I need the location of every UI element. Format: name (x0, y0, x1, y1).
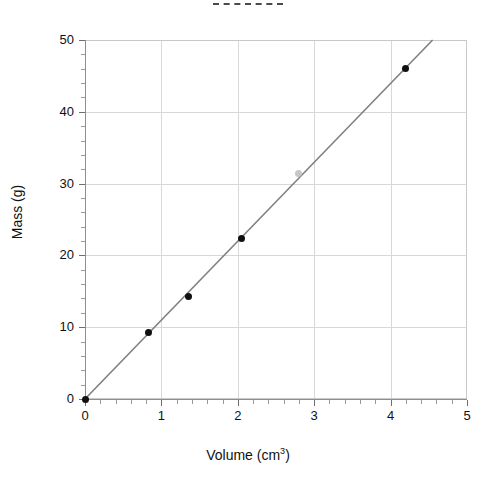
y-axis-title: Mass (g) (9, 132, 25, 292)
x-tick-minor (268, 400, 269, 404)
x-axis-title-close: ) (285, 447, 290, 463)
y-tick-minor (81, 342, 85, 343)
x-tick-major (314, 400, 315, 406)
y-tick-minor (81, 212, 85, 213)
x-tick-minor (253, 400, 254, 404)
gridline-horizontal (86, 255, 466, 256)
x-tick-label: 5 (447, 408, 487, 423)
x-tick-major (238, 400, 239, 406)
y-tick-minor (81, 198, 85, 199)
y-tick-minor (81, 356, 85, 357)
chart-container: 01234501020304050 Volume (cm3) Mass (g) (0, 0, 496, 486)
data-point (82, 396, 89, 403)
y-tick-label: 40 (42, 104, 74, 119)
gridline-vertical (391, 41, 392, 398)
x-axis-title: Volume (cm3) (0, 446, 496, 463)
x-axis-title-text: Volume (cm (206, 447, 280, 463)
y-tick-minor (81, 54, 85, 55)
y-axis-title-text: Mass (g) (9, 185, 25, 239)
x-tick-label: 4 (371, 408, 411, 423)
y-tick-minor (81, 313, 85, 314)
data-point (238, 235, 245, 242)
y-tick-minor (81, 83, 85, 84)
gridline-horizontal (86, 184, 466, 185)
y-tick-minor (81, 126, 85, 127)
x-tick-minor (116, 400, 117, 404)
y-tick-label: 50 (42, 32, 74, 47)
y-tick-minor (81, 69, 85, 70)
x-tick-minor (192, 400, 193, 404)
y-tick-major (79, 184, 85, 185)
y-tick-minor (81, 169, 85, 170)
y-tick-label: 20 (42, 247, 74, 262)
y-tick-minor (81, 284, 85, 285)
y-tick-label: 10 (42, 319, 74, 334)
x-tick-major (391, 400, 392, 406)
x-tick-minor (284, 400, 285, 404)
y-tick-minor (81, 370, 85, 371)
x-tick-label: 0 (65, 408, 105, 423)
x-tick-label: 2 (218, 408, 258, 423)
y-tick-label: 30 (42, 176, 74, 191)
y-tick-minor (81, 385, 85, 386)
gridline-horizontal (86, 112, 466, 113)
y-tick-major (79, 255, 85, 256)
x-tick-minor (131, 400, 132, 404)
x-tick-label: 3 (294, 408, 334, 423)
gridline-vertical (238, 41, 239, 398)
x-tick-minor (452, 400, 453, 404)
x-tick-minor (329, 400, 330, 404)
y-tick-major (79, 327, 85, 328)
title-dashed-line (213, 3, 283, 5)
x-tick-minor (421, 400, 422, 404)
gridline-vertical (314, 41, 315, 398)
y-axis-line (85, 40, 86, 399)
gridline-vertical (161, 41, 162, 398)
y-tick-minor (81, 241, 85, 242)
y-tick-minor (81, 270, 85, 271)
y-tick-minor (81, 141, 85, 142)
y-tick-minor (81, 298, 85, 299)
x-tick-minor (375, 400, 376, 404)
y-tick-minor (81, 155, 85, 156)
x-tick-major (467, 400, 468, 406)
y-tick-label: 0 (42, 391, 74, 406)
y-tick-minor (81, 227, 85, 228)
y-tick-major (79, 112, 85, 113)
x-axis-line (85, 399, 467, 400)
x-tick-minor (299, 400, 300, 404)
x-tick-label: 1 (141, 408, 181, 423)
plot-area (85, 40, 467, 399)
y-tick-major (79, 40, 85, 41)
x-tick-minor (223, 400, 224, 404)
x-tick-minor (100, 400, 101, 404)
x-tick-minor (177, 400, 178, 404)
x-tick-minor (207, 400, 208, 404)
x-tick-minor (406, 400, 407, 404)
x-tick-minor (146, 400, 147, 404)
y-tick-minor (81, 97, 85, 98)
gridline-horizontal (86, 327, 466, 328)
x-tick-minor (345, 400, 346, 404)
x-tick-major (161, 400, 162, 406)
x-tick-minor (360, 400, 361, 404)
x-tick-minor (436, 400, 437, 404)
data-point (185, 293, 192, 300)
